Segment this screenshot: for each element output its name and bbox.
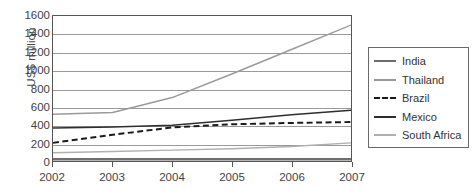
series-lines bbox=[53, 16, 351, 161]
x-tick-mark bbox=[52, 162, 53, 167]
x-tick-label: 2005 bbox=[219, 170, 245, 184]
x-axis-tick-labels: 200220032004200520062007 bbox=[0, 170, 475, 186]
legend-swatch-icon bbox=[374, 116, 396, 118]
x-tick-mark bbox=[112, 162, 113, 167]
legend-item-mexico[interactable]: Mexico bbox=[374, 108, 466, 126]
legend-swatch-icon bbox=[374, 60, 396, 62]
y-tick-label: 400 bbox=[31, 120, 50, 130]
x-axis-tick-marks bbox=[52, 162, 352, 168]
y-tick-label: 1200 bbox=[24, 47, 50, 57]
x-tick-mark bbox=[172, 162, 173, 167]
x-tick-mark bbox=[292, 162, 293, 167]
y-tick-label: 600 bbox=[31, 102, 50, 112]
x-tick-label: 2003 bbox=[99, 170, 125, 184]
legend-item-label: India bbox=[402, 55, 426, 67]
x-tick-label: 2002 bbox=[39, 170, 65, 184]
y-tick-label: 200 bbox=[31, 139, 50, 149]
series-line-south-africa bbox=[53, 143, 351, 153]
x-tick-mark bbox=[352, 162, 353, 167]
line-chart-figure: US$ million 0200400600800100012001400160… bbox=[0, 0, 475, 195]
y-tick-label: 1000 bbox=[24, 65, 50, 75]
legend-item-label: Mexico bbox=[402, 111, 437, 123]
legend-swatch-icon bbox=[374, 134, 396, 136]
y-axis-tick-labels: 02004006008001000120014001600 bbox=[6, 0, 50, 195]
legend-item-south-africa[interactable]: South Africa bbox=[374, 126, 466, 144]
series-line-thailand bbox=[53, 25, 351, 114]
legend-swatch-icon bbox=[374, 79, 396, 81]
legend-item-india[interactable]: India bbox=[374, 52, 466, 70]
plot-area bbox=[52, 15, 352, 162]
y-tick-label: 1600 bbox=[24, 10, 50, 20]
legend-swatch-icon bbox=[374, 97, 396, 99]
x-tick-label: 2006 bbox=[279, 170, 305, 184]
series-line-brazil bbox=[53, 122, 351, 143]
chart-legend: IndiaThailandBrazilMexicoSouth Africa bbox=[368, 47, 469, 148]
legend-item-label: Thailand bbox=[402, 74, 444, 86]
x-tick-label: 2007 bbox=[339, 170, 365, 184]
legend-item-brazil[interactable]: Brazil bbox=[374, 89, 466, 107]
legend-item-label: South Africa bbox=[402, 129, 461, 141]
x-tick-label: 2004 bbox=[159, 170, 185, 184]
y-tick-label: 0 bbox=[44, 157, 50, 167]
x-tick-mark bbox=[232, 162, 233, 167]
y-tick-label: 1400 bbox=[24, 28, 50, 38]
y-tick-label: 800 bbox=[31, 84, 50, 94]
legend-item-thailand[interactable]: Thailand bbox=[374, 71, 466, 89]
legend-item-label: Brazil bbox=[402, 92, 430, 104]
